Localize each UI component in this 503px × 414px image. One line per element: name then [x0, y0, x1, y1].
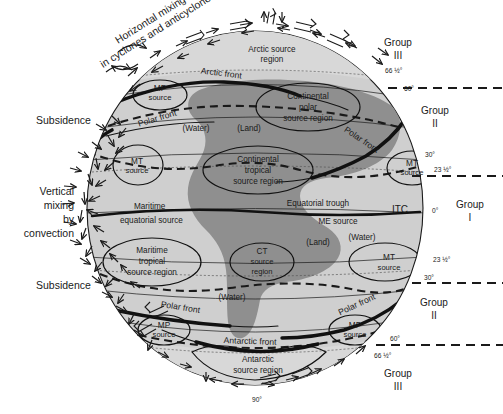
land-north-label: (Land): [237, 124, 261, 133]
mt-source-ne-label-l1: MT: [406, 159, 418, 168]
maritime-equatorial-label-l2: equatorial source: [120, 216, 183, 225]
continental-polar-label-l2: polar: [299, 103, 317, 112]
continental-tropical-label-l2: tropical: [245, 166, 272, 175]
vertical-mixing-l4: convection: [24, 227, 74, 239]
mp-source-nw-label-l2: source: [149, 93, 172, 102]
group-ii-south-l1: Group: [420, 297, 448, 308]
itc-label: ITC: [392, 204, 408, 215]
lat-23n-label: 23 ½°: [434, 166, 452, 173]
subsidence-top-label: Subsidence: [36, 114, 91, 126]
lat-30n-label: 30°: [425, 151, 435, 158]
continental-polar-label-l1: Continental: [287, 92, 329, 101]
water-ne-label: (Water): [349, 233, 376, 242]
mt-source-se-label-l1: MT: [383, 253, 395, 262]
air-mass-source-regions-diagram: Arctic source region MP source Continent…: [0, 0, 503, 414]
ct-source-label-l3: region: [251, 267, 272, 276]
group-i-l2: I: [469, 212, 472, 223]
group-ii-south-l2: II: [431, 310, 437, 321]
mp-source-se-label-l1: MP: [349, 321, 362, 330]
mt-source-se-label-l2: source: [378, 263, 401, 272]
water-nw-label: (Water): [183, 124, 210, 133]
me-source-label: ME source: [318, 217, 358, 226]
group-i-l1: Group: [456, 199, 484, 210]
mp-source-se-label-l2: source: [344, 330, 367, 339]
group-iii-north-l1: Group: [384, 37, 412, 48]
mt-source-nw-label-l1: MT: [131, 157, 143, 166]
antarctic-source-label-l1: Antarctic: [242, 355, 274, 364]
ct-source-label-l1: CT: [257, 247, 268, 256]
lat-66s-label: 66 ½°: [374, 352, 392, 359]
group-iii-north-l2: III: [394, 50, 402, 61]
ct-source-label-l2: source: [251, 257, 274, 266]
lat-0-label: 0°: [432, 207, 439, 214]
lat-66n-label: 66 ½°: [385, 67, 403, 74]
land-south-label: (Land): [306, 238, 330, 247]
mp-source-sw-label-l2: source: [153, 330, 176, 339]
maritime-tropical-label-l2: tropical: [139, 257, 166, 266]
continental-polar-label-l3: source region: [283, 114, 333, 123]
arctic-source-region-label-l2: region: [261, 55, 284, 64]
mp-source-sw-label-l1: MP: [158, 321, 171, 330]
arctic-source-region-label-l1: Arctic source: [248, 45, 296, 54]
maritime-equatorial-label-l1: Maritime: [134, 202, 166, 211]
mp-source-nw-label-l1: MP: [154, 84, 167, 93]
water-sw-label: (Water): [219, 293, 246, 302]
group-iii-south-l1: Group: [384, 368, 412, 379]
vertical-mixing-l2: mixing: [44, 199, 75, 211]
continental-tropical-label-l3: source region: [233, 177, 283, 186]
maritime-tropical-label-l3: source region: [127, 268, 177, 277]
equatorial-trough-label: Equatorial trough: [287, 199, 350, 208]
lat-30s-label: 30°: [424, 274, 434, 281]
group-ii-north-l1: Group: [421, 105, 449, 116]
lat-60s-label: 60°: [390, 335, 400, 342]
lat-23s-label: 23 ½°: [433, 256, 451, 263]
maritime-tropical-label-l1: Maritime: [136, 246, 168, 255]
lat-90s-label: 90°: [252, 396, 262, 403]
lat-60n-label: 60°: [404, 85, 414, 92]
mt-source-nw-label-l2: source: [126, 166, 149, 175]
subsidence-bottom-label: Subsidence: [36, 279, 91, 291]
antarctic-front-label: Antarctic front: [223, 335, 277, 347]
continental-tropical-label-l1: Continental: [237, 155, 279, 164]
group-ii-north-l2: II: [432, 118, 438, 129]
group-iii-south-l2: III: [394, 381, 402, 392]
